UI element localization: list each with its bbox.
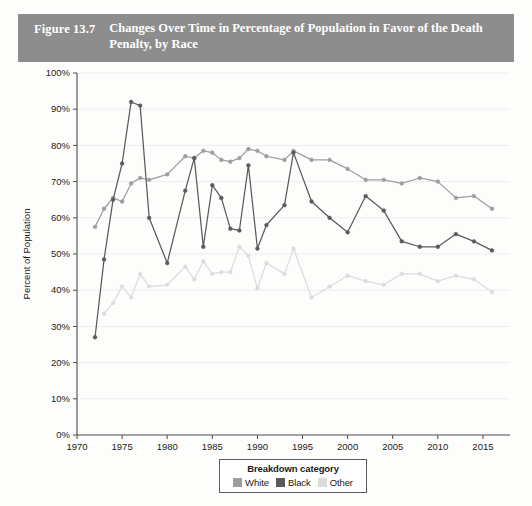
- data-point: [165, 172, 169, 176]
- data-point: [237, 229, 241, 233]
- legend-label: Other: [330, 477, 353, 488]
- data-point: [228, 227, 232, 231]
- legend-swatch-icon: [233, 478, 242, 487]
- data-point: [210, 183, 214, 187]
- data-series-group: [93, 100, 494, 339]
- data-point: [111, 301, 115, 305]
- data-point: [247, 163, 251, 167]
- data-point: [310, 158, 314, 162]
- series-line: [95, 102, 492, 337]
- x-tick-label: 2010: [427, 441, 448, 452]
- data-point: [400, 272, 404, 276]
- data-point: [183, 154, 187, 158]
- x-tick-label: 1995: [292, 441, 313, 452]
- x-axis: 1970197519801985199019952000200520102015: [66, 435, 510, 452]
- data-point: [147, 285, 151, 289]
- x-tick-label: 1970: [66, 441, 87, 452]
- data-point: [201, 259, 205, 263]
- data-point: [93, 225, 97, 229]
- data-point: [490, 207, 494, 211]
- x-tick-label: 1980: [157, 441, 178, 452]
- data-point: [436, 245, 440, 249]
- y-tick-label: 100%: [46, 67, 71, 78]
- data-point: [247, 254, 251, 258]
- data-point: [219, 196, 223, 200]
- data-point: [400, 239, 404, 243]
- data-point: [454, 274, 458, 278]
- data-point: [111, 198, 115, 202]
- data-point: [382, 209, 386, 213]
- data-point: [283, 158, 287, 162]
- data-point: [129, 100, 133, 104]
- legend-items: WhiteBlackOther: [224, 477, 362, 488]
- data-point: [436, 279, 440, 283]
- legend-label: White: [245, 477, 269, 488]
- data-point: [228, 160, 232, 164]
- data-point: [219, 158, 223, 162]
- data-point: [283, 272, 287, 276]
- y-tick-label: 80%: [51, 140, 71, 151]
- data-point: [382, 178, 386, 182]
- data-point: [346, 230, 350, 234]
- data-point: [454, 232, 458, 236]
- data-point: [120, 200, 124, 204]
- data-point: [310, 200, 314, 204]
- data-point: [472, 194, 476, 198]
- data-point: [147, 216, 151, 220]
- legend-item-other[interactable]: Other: [318, 477, 353, 488]
- data-point: [201, 245, 205, 249]
- data-point: [472, 277, 476, 281]
- series-other: [102, 245, 494, 316]
- data-point: [454, 196, 458, 200]
- data-point: [129, 182, 133, 186]
- y-tick-label: 70%: [51, 176, 71, 187]
- data-point: [364, 178, 368, 182]
- data-point: [201, 149, 205, 153]
- data-point: [210, 272, 214, 276]
- chart-legend: Breakdown category WhiteBlackOther: [219, 459, 367, 493]
- x-tick-label: 2005: [382, 441, 403, 452]
- data-point: [256, 247, 260, 251]
- data-point: [382, 283, 386, 287]
- data-point: [283, 203, 287, 207]
- legend-swatch-icon: [276, 478, 285, 487]
- data-point: [192, 277, 196, 281]
- data-point: [120, 162, 124, 166]
- data-point: [147, 178, 151, 182]
- data-point: [102, 258, 106, 262]
- data-point: [247, 147, 251, 151]
- data-point: [364, 279, 368, 283]
- data-point: [165, 283, 169, 287]
- y-tick-label: 10%: [51, 393, 71, 404]
- data-point: [256, 286, 260, 290]
- data-point: [265, 223, 269, 227]
- x-tick-label: 1990: [247, 441, 268, 452]
- data-point: [418, 176, 422, 180]
- data-point: [183, 265, 187, 269]
- data-point: [102, 312, 106, 316]
- data-point: [364, 194, 368, 198]
- x-tick-label: 1985: [202, 441, 223, 452]
- data-point: [346, 167, 350, 171]
- x-tick-label: 1975: [112, 441, 133, 452]
- data-point: [138, 272, 142, 276]
- figure-container: Figure 13.7 Changes Over Time in Percent…: [0, 0, 532, 506]
- data-point: [93, 335, 97, 339]
- data-point: [292, 247, 296, 251]
- x-tick-label: 2000: [337, 441, 358, 452]
- legend-item-black[interactable]: Black: [276, 477, 311, 488]
- y-tick-label: 0%: [56, 429, 70, 440]
- data-point: [400, 182, 404, 186]
- data-point: [328, 285, 332, 289]
- data-point: [228, 270, 232, 274]
- data-point: [265, 261, 269, 265]
- legend-item-white[interactable]: White: [233, 477, 269, 488]
- x-tick-label: 2015: [472, 441, 493, 452]
- y-tick-label: 50%: [51, 248, 71, 259]
- data-point: [237, 245, 241, 249]
- data-point: [138, 104, 142, 108]
- data-point: [120, 285, 124, 289]
- chart-svg: 0%10%20%30%40%50%60%70%80%90%100% 197019…: [0, 0, 532, 506]
- data-point: [328, 216, 332, 220]
- data-point: [418, 245, 422, 249]
